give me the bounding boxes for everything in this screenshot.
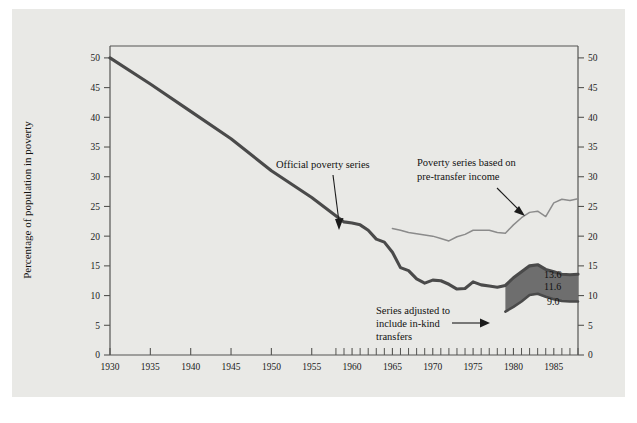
data-label-band-upper-end: 11.6 [544,281,561,292]
y-tick-label-left: 25 [91,202,101,212]
x-tick-label: 1975 [464,362,483,372]
data-label-official-end: 13.6 [544,269,562,280]
y-tick-label-left: 5 [95,321,100,331]
annotation-inkind-series: Series adjusted to include in-kind trans… [376,305,490,342]
y-tick-label-left: 35 [91,142,101,152]
y-tick-label-right: 45 [588,83,598,93]
y-tick-label-left: 0 [95,350,100,360]
x-tick-label: 1945 [222,362,241,372]
data-label-inkind-end: 9.0 [547,296,560,307]
y-tick-label-right: 5 [588,321,593,331]
x-tick-label: 1985 [544,362,563,372]
y-tick-label-right: 0 [588,350,593,360]
annotation-inkind-arrowhead [480,319,490,328]
y-tick-label-left: 20 [91,232,101,242]
y-tick-label-right: 15 [588,261,598,271]
y-axis-left-ticks: 05101520253035404550 [91,53,111,360]
x-tick-label: 1970 [423,362,442,372]
poverty-chart: 05101520253035404550 0510152025303540455… [0,0,637,423]
annotation-pretransfer-series: Poverty series based on pre-transfer inc… [417,157,525,216]
x-tick-label: 1935 [141,362,160,372]
y-tick-label-right: 40 [588,113,598,123]
annotation-pretransfer-text-2: pre-transfer income [417,171,500,182]
y-tick-label-right: 35 [588,142,598,152]
y-tick-label-left: 50 [91,53,101,63]
annotation-official-text: Official poverty series [276,159,370,170]
x-axis-ticks: 1930193519401945195019551960196519701975… [101,348,564,372]
y-axis-label: Percentage of population in poverty [21,121,33,279]
x-tick-label: 1940 [181,362,200,372]
x-axis-minor-ticks [336,348,578,355]
y-tick-label-right: 10 [588,291,598,301]
annotation-pretransfer-leader [497,188,520,211]
annotation-inkind-text-3: transfers [376,331,412,342]
annotation-official-arrowhead [335,218,344,230]
y-tick-label-right: 25 [588,202,598,212]
annotation-pretransfer-text-1: Poverty series based on [417,157,517,168]
series-official [110,58,578,289]
x-tick-label: 1965 [383,362,402,372]
x-tick-label: 1955 [302,362,321,372]
y-tick-label-right: 50 [588,53,598,63]
y-tick-label-right: 20 [588,232,598,242]
y-tick-label-left: 15 [91,261,101,271]
y-axis-right-ticks: 05101520253035404550 [578,53,598,360]
y-tick-label-left: 30 [91,172,101,182]
x-tick-label: 1980 [504,362,523,372]
annotation-inkind-text-1: Series adjusted to [376,305,450,316]
y-tick-label-left: 45 [91,83,101,93]
annotation-inkind-text-2: include in-kind [376,318,441,329]
series-pre-transfer [392,199,578,241]
x-tick-label: 1960 [343,362,362,372]
y-tick-label-left: 40 [91,113,101,123]
annotation-pretransfer-arrowhead [514,206,525,216]
x-tick-label: 1950 [262,362,281,372]
annotation-official-series: Official poverty series [276,159,370,230]
x-tick-label: 1930 [101,362,120,372]
y-tick-label-left: 10 [91,291,101,301]
y-tick-label-right: 30 [588,172,598,182]
